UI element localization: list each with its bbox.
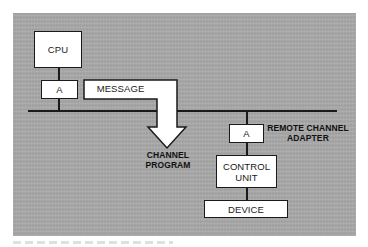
remote-adapter-label: A [243, 128, 249, 139]
cpu-label: CPU [48, 44, 68, 55]
remote-adapter-line1: REMOTE CHANNEL [264, 123, 352, 133]
local-adapter-box: A [41, 80, 78, 99]
remote-adapter-box: A [229, 124, 264, 143]
message-text: MESSAGE [97, 83, 145, 94]
control-unit-box: CONTROL UNIT [216, 155, 277, 188]
device-box: DEVICE [204, 200, 288, 218]
cpu-box: CPU [34, 31, 82, 68]
channel-program-label: CHANNEL PROGRAM [142, 150, 194, 170]
local-adapter-label: A [56, 84, 62, 95]
control-unit-line2: UNIT [235, 172, 258, 183]
faded-caption [13, 241, 173, 244]
channel-program-line2: PROGRAM [142, 160, 194, 170]
remote-adapter-line2: ADAPTER [264, 133, 352, 143]
remote-channel-adapter-label: REMOTE CHANNEL ADAPTER [264, 123, 352, 143]
message-label: MESSAGE [84, 84, 157, 94]
control-unit-line1: CONTROL [223, 161, 270, 172]
device-label: DEVICE [228, 204, 264, 215]
channel-program-line1: CHANNEL [142, 150, 194, 160]
